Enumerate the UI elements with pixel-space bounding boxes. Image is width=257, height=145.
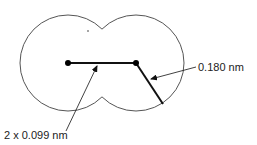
artifact-dot: [87, 30, 89, 32]
bond-length-arrow: [66, 66, 97, 131]
vdw-radius-line: [136, 63, 163, 104]
vdw-radius-label: 0.180 nm: [198, 61, 244, 73]
bond-length-label: 2 x 0.099 nm: [4, 129, 68, 141]
nucleus-right: [133, 60, 139, 66]
nucleus-left: [65, 60, 71, 66]
molecule-diagram: 0.180 nm 2 x 0.099 nm: [0, 0, 257, 145]
vdw-radius-arrow: [151, 67, 196, 79]
